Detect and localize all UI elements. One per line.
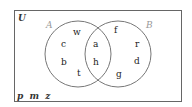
set-a-label: A (45, 20, 53, 30)
element-h: h (93, 57, 99, 67)
venn-diagram: U A B w c b t a h f r d g p m z (0, 0, 192, 107)
element-a: a (93, 39, 99, 49)
element-g: g (116, 69, 122, 79)
element-d: d (134, 56, 140, 66)
element-t: t (77, 68, 81, 78)
element-b: b (61, 57, 67, 67)
element-r: r (135, 39, 140, 49)
element-f: f (114, 25, 118, 35)
universal-label: U (18, 13, 27, 23)
element-c: c (61, 39, 66, 49)
universal-set-rectangle (15, 11, 182, 102)
set-b-label: B (145, 20, 153, 30)
outside-elements: p m z (17, 91, 51, 101)
element-w: w (73, 27, 81, 37)
